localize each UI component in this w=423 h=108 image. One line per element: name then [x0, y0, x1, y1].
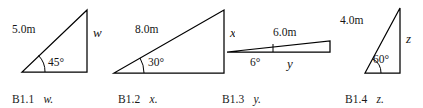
- triangle-diagram-b1-3: 6.0m 6° y: [225, 0, 340, 86]
- triangle-diagram-b1-1: 5.0m 45° w: [0, 0, 110, 86]
- hypotenuse-length-label-b1-1: 5.0m: [12, 23, 35, 35]
- caption-var-b1-4: z.: [376, 93, 384, 105]
- angle-label-b1-2: 30°: [148, 56, 165, 68]
- angle-label-b1-3: 6°: [250, 56, 261, 68]
- figure-panel-b1-4: 4.0m 60° z B1.4z.: [335, 0, 423, 108]
- triangle-outline-b1-3: [227, 41, 330, 52]
- unknown-side-label-b1-1: w: [93, 25, 102, 40]
- panel-caption-b1-3: B1.3y.: [222, 93, 261, 105]
- figure-panel-b1-2: 8.0m 30° x B1.2x.: [110, 0, 225, 108]
- caption-id-b1-4: B1.4: [345, 93, 367, 105]
- angle-label-b1-1: 45°: [48, 56, 65, 68]
- hypotenuse-length-label-b1-3: 6.0m: [273, 26, 296, 38]
- trigonometry-figure-sheet: 5.0m 45° w B1.1w. 8.0m 30° x B1.2x. 6.0m: [0, 0, 423, 108]
- panel-caption-b1-4: B1.4z.: [345, 93, 384, 105]
- triangle-outline-b1-2: [114, 10, 224, 73]
- caption-id-b1-3: B1.3: [222, 93, 244, 105]
- unknown-side-label-b1-4: z: [405, 31, 411, 46]
- unknown-side-label-b1-3: y: [285, 56, 293, 71]
- figure-panel-b1-3: 6.0m 6° y B1.3y.: [225, 0, 335, 108]
- hypotenuse-length-label-b1-4: 4.0m: [340, 14, 363, 26]
- caption-id-b1-1: B1.1: [12, 93, 34, 105]
- angle-label-b1-4: 60°: [373, 53, 390, 65]
- caption-var-b1-2: x.: [149, 93, 157, 105]
- panel-caption-b1-2: B1.2x.: [118, 93, 158, 105]
- angle-arc-30: [140, 58, 144, 73]
- caption-var-b1-1: w.: [43, 93, 53, 105]
- caption-id-b1-2: B1.2: [118, 93, 140, 105]
- caption-var-b1-3: y.: [253, 93, 261, 105]
- panel-caption-b1-1: B1.1w.: [12, 93, 53, 105]
- triangle-diagram-b1-2: 8.0m 30° x: [110, 0, 235, 86]
- angle-arc-45: [39, 56, 46, 73]
- hypotenuse-length-label-b1-2: 8.0m: [135, 23, 158, 35]
- figure-panel-b1-1: 5.0m 45° w B1.1w.: [0, 0, 110, 108]
- triangle-diagram-b1-4: 4.0m 60° z: [335, 0, 423, 86]
